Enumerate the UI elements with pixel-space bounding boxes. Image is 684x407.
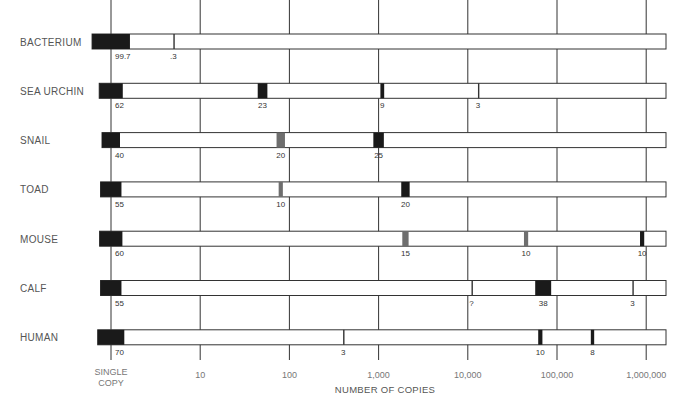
species-row-sea-urchin: SEA URCHIN622393 <box>20 83 666 110</box>
segment-mark <box>535 281 551 296</box>
percent-label: 55 <box>115 200 124 209</box>
x-tick-label: 1,000 <box>367 370 390 380</box>
segment-mark <box>101 182 122 197</box>
percent-label: 20 <box>401 200 410 209</box>
segment-mark <box>471 281 472 296</box>
segment-mark <box>279 182 283 197</box>
percent-label: 10 <box>276 200 285 209</box>
percent-label: 62 <box>115 101 124 110</box>
species-label: TOAD <box>20 184 49 195</box>
segment-mark <box>373 133 384 148</box>
bar-track <box>98 330 666 345</box>
x-tick-label: 100 <box>282 370 297 380</box>
percent-label: 8 <box>590 348 595 357</box>
x-tick-label: 10 <box>195 370 205 380</box>
x-tick-label: 1,000,000 <box>626 370 666 380</box>
species-label: SEA URCHIN <box>20 86 84 97</box>
segment-mark <box>343 330 344 345</box>
bar-track <box>102 133 666 148</box>
segment-mark <box>92 34 130 49</box>
segment-mark <box>632 281 633 296</box>
percent-label: 9 <box>380 101 385 110</box>
species-row-snail: SNAIL402025 <box>20 133 666 160</box>
segment-mark <box>402 231 408 246</box>
percent-label: 23 <box>258 101 267 110</box>
percent-label: 3 <box>630 299 635 308</box>
species-label: CALF <box>20 283 47 294</box>
percent-label: 10 <box>638 249 647 258</box>
segment-mark <box>173 34 174 49</box>
segment-mark <box>380 83 384 98</box>
percent-label: 99.7 <box>115 52 131 61</box>
percent-label: ? <box>469 299 474 308</box>
segment-mark <box>99 83 123 98</box>
species-label: HUMAN <box>20 332 58 343</box>
segment-mark <box>98 330 125 345</box>
x-tick-label: 10,000 <box>454 370 482 380</box>
species-row-toad: TOAD551020 <box>20 182 666 209</box>
species-row-bacterium: BACTERIUM99.7.3 <box>20 34 666 61</box>
segment-mark <box>591 330 594 345</box>
x-tick-label: SINGLECOPY <box>94 367 127 388</box>
percent-label: 3 <box>341 348 346 357</box>
x-axis-title: NUMBER OF COPIES <box>335 384 435 395</box>
bar-track <box>101 281 666 296</box>
percent-label: 40 <box>115 151 124 160</box>
segment-mark <box>102 133 120 148</box>
percent-label: 10 <box>522 249 531 258</box>
percent-label: 3 <box>476 101 481 110</box>
segment-mark <box>401 182 409 197</box>
species-row-mouse: MOUSE60151010 <box>20 231 666 258</box>
species-row-calf: CALF55?383 <box>20 281 666 308</box>
chart: BACTERIUM99.7.3SEA URCHIN622393SNAIL4020… <box>0 0 684 407</box>
segment-mark <box>100 231 123 246</box>
segment-mark <box>277 133 285 148</box>
percent-label: 15 <box>401 249 410 258</box>
percent-label: 60 <box>115 249 124 258</box>
percent-label: 38 <box>539 299 548 308</box>
segment-mark <box>101 281 122 296</box>
percent-label: 70 <box>115 348 124 357</box>
bar-track <box>92 34 666 49</box>
segment-mark <box>258 83 268 98</box>
percent-label: .3 <box>170 52 177 61</box>
percent-label: 55 <box>115 299 124 308</box>
percent-label: 25 <box>374 151 383 160</box>
segment-mark <box>640 231 644 246</box>
bar-track <box>101 182 666 197</box>
species-label: MOUSE <box>20 234 58 245</box>
percent-label: 20 <box>276 151 285 160</box>
species-label: BACTERIUM <box>20 37 82 48</box>
segment-mark <box>538 330 542 345</box>
gridlines <box>111 0 646 360</box>
segment-mark <box>524 231 528 246</box>
species-rows: BACTERIUM99.7.3SEA URCHIN622393SNAIL4020… <box>20 34 666 357</box>
species-row-human: HUMAN703108 <box>20 330 666 357</box>
bar-track <box>100 231 666 246</box>
percent-label: 10 <box>536 348 545 357</box>
x-tick-label: 100,000 <box>541 370 574 380</box>
species-label: SNAIL <box>20 135 51 146</box>
segment-mark <box>478 83 479 98</box>
